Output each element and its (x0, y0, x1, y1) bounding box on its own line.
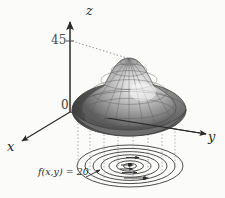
math-figure-surface-and-level-curves: z x y 45 0 f(x,y) = 20 (0, 0, 225, 198)
z-axis-label: z (86, 4, 93, 17)
z-tick-label-45: 45 (51, 34, 66, 46)
surface-group (72, 58, 186, 136)
origin-label: 0 (61, 99, 69, 111)
peak-leader-line (72, 41, 130, 59)
y-axis-label: y (208, 130, 215, 143)
x-axis-line (22, 112, 70, 141)
surface-highlight (130, 83, 156, 101)
level-curve-callout-label: f(x,y) = 20 (38, 167, 89, 177)
figure-canvas (0, 0, 225, 198)
x-axis-label: x (7, 140, 14, 153)
